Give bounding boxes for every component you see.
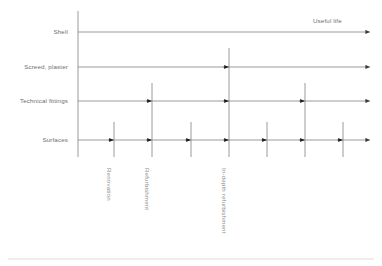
intervention-label-refurbishment: Refurbishment: [144, 168, 150, 210]
useful-life-label: Useful life: [313, 18, 342, 24]
intervention-markers: [109, 67, 343, 140]
row-label-technical-fittings: Technical fittings: [20, 98, 68, 104]
row-label-surfaces: Surfaces: [42, 137, 68, 143]
row-label-shell: Shell: [53, 29, 68, 35]
intervention-label-in-depth-refurbishment: In-depth refurbishment: [221, 168, 227, 234]
row-label-screed-plaster: Screed, plaster: [24, 64, 68, 70]
figure-canvas: Useful life ShellScreed, plasterTechnica…: [0, 0, 382, 266]
intervention-lines: [114, 48, 343, 157]
timeline-rows: [78, 32, 370, 140]
lifecycle-diagram: [0, 0, 382, 266]
intervention-label-renovation: Renovation: [106, 168, 112, 201]
